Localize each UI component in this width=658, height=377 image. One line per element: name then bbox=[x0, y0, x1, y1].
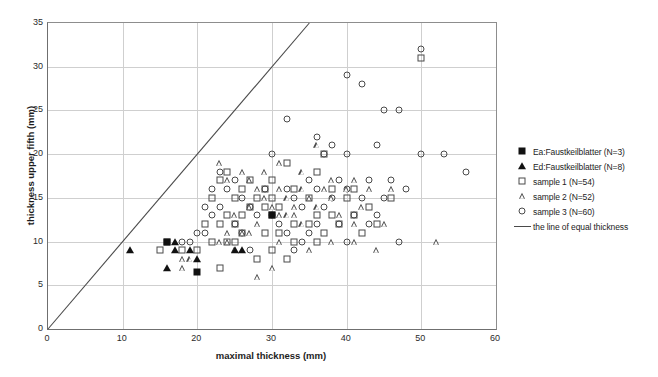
gridline-vertical bbox=[197, 23, 198, 329]
data-point-filled-triangle bbox=[193, 255, 201, 262]
data-point-open-circle bbox=[313, 133, 320, 140]
x-tick-label: 0 bbox=[27, 333, 67, 343]
x-axis-label: maximal thickness (mm) bbox=[47, 350, 495, 361]
data-point-open-triangle bbox=[381, 221, 387, 227]
data-point-open-circle bbox=[224, 186, 231, 193]
data-point-open-square bbox=[239, 212, 246, 219]
legend-swatch-filled-triangle bbox=[518, 162, 526, 169]
data-point-filled-square bbox=[269, 212, 276, 219]
data-point-open-circle bbox=[328, 142, 335, 149]
data-point-filled-triangle bbox=[163, 264, 171, 271]
data-point-open-circle bbox=[209, 186, 216, 193]
data-point-open-triangle bbox=[262, 195, 268, 201]
data-point-open-triangle bbox=[351, 177, 357, 183]
gridline-vertical bbox=[347, 23, 348, 329]
x-tick-label: 50 bbox=[400, 333, 440, 343]
data-point-open-triangle bbox=[299, 186, 305, 192]
data-point-open-square bbox=[328, 186, 335, 193]
data-point-filled-square bbox=[194, 269, 201, 276]
data-point-open-square bbox=[254, 194, 261, 201]
data-point-open-circle bbox=[306, 177, 313, 184]
y-axis-label: thickness upper fifth (mm) bbox=[25, 46, 36, 286]
data-point-open-square bbox=[194, 247, 201, 254]
data-point-open-circle bbox=[343, 72, 350, 79]
data-point-open-triangle bbox=[329, 238, 335, 244]
data-point-open-square bbox=[306, 221, 313, 228]
y-tick-label: 15 bbox=[3, 192, 43, 202]
data-point-open-circle bbox=[239, 194, 246, 201]
legend-item: Ed:Faustkeilblatter (N=8) bbox=[513, 159, 646, 174]
data-point-open-triangle bbox=[254, 186, 260, 192]
y-tick-label: 35 bbox=[3, 17, 43, 27]
data-point-open-square bbox=[231, 221, 238, 228]
data-point-open-circle bbox=[381, 107, 388, 114]
data-point-open-square bbox=[239, 186, 246, 193]
y-tick-label: 30 bbox=[3, 61, 43, 71]
x-tick-label: 20 bbox=[176, 333, 216, 343]
data-point-filled-triangle bbox=[171, 246, 179, 253]
legend-label: sample 3 (N=60) bbox=[533, 207, 595, 217]
data-point-open-circle bbox=[343, 238, 350, 245]
legend-label: sample 2 (N=52) bbox=[533, 192, 595, 202]
data-point-open-circle bbox=[313, 221, 320, 228]
data-point-filled-triangle bbox=[126, 246, 134, 253]
data-point-open-triangle bbox=[276, 186, 282, 192]
data-point-open-square bbox=[366, 203, 373, 210]
data-point-filled-triangle bbox=[238, 246, 246, 253]
data-point-open-square bbox=[201, 221, 208, 228]
y-tick-label: 5 bbox=[3, 279, 43, 289]
data-point-open-square bbox=[269, 194, 276, 201]
data-point-open-circle bbox=[463, 168, 470, 175]
data-point-open-triangle bbox=[262, 168, 268, 174]
data-point-open-triangle bbox=[284, 212, 290, 218]
gridline-vertical bbox=[421, 23, 422, 329]
data-point-open-triangle bbox=[351, 238, 357, 244]
data-point-open-triangle bbox=[284, 195, 290, 201]
data-point-open-circle bbox=[291, 247, 298, 254]
data-point-open-triangle bbox=[291, 212, 297, 218]
chart-legend: Ea:Faustkeilblatter (N=3)Ed:Faustkeilbla… bbox=[509, 140, 650, 239]
data-point-open-circle bbox=[254, 212, 261, 219]
data-point-open-square bbox=[224, 168, 231, 175]
data-point-open-square bbox=[306, 194, 313, 201]
data-point-open-circle bbox=[358, 194, 365, 201]
data-point-open-triangle bbox=[254, 221, 260, 227]
data-point-open-triangle bbox=[254, 273, 260, 279]
data-point-open-square bbox=[291, 238, 298, 245]
legend-marker-filled-square bbox=[513, 144, 533, 159]
data-point-open-square bbox=[261, 229, 268, 236]
data-point-open-circle bbox=[358, 81, 365, 88]
data-point-open-square bbox=[254, 256, 261, 263]
data-point-open-circle bbox=[201, 203, 208, 210]
data-point-open-circle bbox=[336, 177, 343, 184]
data-point-open-circle bbox=[209, 212, 216, 219]
data-point-open-circle bbox=[179, 238, 186, 245]
data-point-open-square bbox=[283, 256, 290, 263]
data-point-open-square bbox=[224, 238, 231, 245]
data-point-open-circle bbox=[283, 116, 290, 123]
data-point-open-triangle bbox=[344, 186, 350, 192]
data-point-open-square bbox=[246, 203, 253, 210]
data-point-open-circle bbox=[216, 168, 223, 175]
data-point-open-triangle bbox=[291, 203, 297, 209]
data-point-open-triangle bbox=[329, 195, 335, 201]
y-tick-label: 20 bbox=[3, 148, 43, 158]
data-point-open-square bbox=[313, 238, 320, 245]
data-point-open-triangle bbox=[306, 247, 312, 253]
data-point-open-square bbox=[351, 186, 358, 193]
data-point-open-circle bbox=[231, 177, 238, 184]
legend-swatch-filled-square bbox=[519, 148, 526, 155]
legend-marker-open-square bbox=[513, 174, 533, 189]
legend-label: Ea:Faustkeilblatter (N=3) bbox=[533, 147, 625, 157]
y-axis-ticks: 05101520253035 bbox=[0, 22, 43, 328]
data-point-open-square bbox=[209, 238, 216, 245]
gridline-vertical bbox=[123, 23, 124, 329]
x-tick-label: 30 bbox=[251, 333, 291, 343]
data-point-open-circle bbox=[373, 212, 380, 219]
data-point-open-square bbox=[418, 54, 425, 61]
legend-marker-filled-triangle bbox=[513, 159, 533, 174]
data-point-open-square bbox=[336, 221, 343, 228]
data-point-filled-square bbox=[164, 238, 171, 245]
data-point-open-triangle bbox=[179, 264, 185, 270]
data-point-open-triangle bbox=[276, 238, 282, 244]
